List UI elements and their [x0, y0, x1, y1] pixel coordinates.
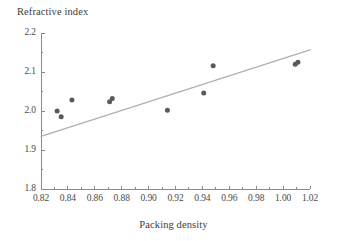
trend-line: [41, 50, 310, 137]
data-point: [295, 60, 300, 65]
x-axis-tick-label: 1.02: [293, 193, 327, 203]
data-point: [69, 98, 74, 103]
plot-area: [0, 0, 347, 241]
data-point: [55, 109, 60, 114]
data-point: [110, 96, 115, 101]
scatter-chart: Refractive index Packing density 2.22.12…: [0, 0, 347, 241]
data-point: [211, 63, 216, 68]
y-axis-tick-label: 2.1: [14, 66, 36, 76]
tick-marks: [41, 33, 310, 189]
axis-lines: [41, 33, 310, 189]
x-axis-title: Packing density: [0, 219, 347, 230]
y-axis-tick-label: 1.8: [14, 183, 36, 193]
y-axis-tick-label: 2.0: [14, 105, 36, 115]
data-point: [165, 108, 170, 113]
y-axis-tick-label: 1.9: [14, 144, 36, 154]
y-axis-tick-label: 2.2: [14, 27, 36, 37]
y-axis-title: Refractive index: [17, 6, 88, 17]
data-markers: [55, 60, 301, 120]
data-point: [59, 114, 64, 119]
data-point: [201, 91, 206, 96]
